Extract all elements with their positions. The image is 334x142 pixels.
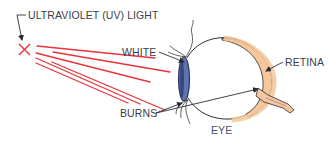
eye-label: EYE: [211, 124, 232, 136]
uv-light-leader-arrow: [17, 15, 26, 40]
burns-label: BURNS: [120, 107, 157, 119]
uv-eye-burn-diagram: ULTRAVIOLET (UV) LIGHT WHITE RETINA: [0, 0, 334, 142]
cornea-shadow: [180, 60, 184, 98]
upper-eyelashes: [168, 20, 193, 57]
uv-source-x-icon: [19, 44, 30, 55]
retina-label: RETINA: [285, 56, 324, 68]
lower-eyelashes: [176, 100, 190, 124]
white-label: WHITE: [122, 46, 156, 58]
uv-light-label: ULTRAVIOLET (UV) LIGHT: [28, 9, 159, 21]
